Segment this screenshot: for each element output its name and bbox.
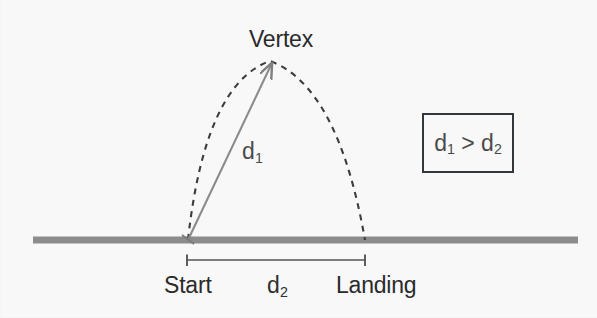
comparison-right-subscript: 2 bbox=[494, 141, 502, 157]
comparison-box: d1 > d2 bbox=[422, 113, 514, 173]
d1-label-base: d bbox=[242, 138, 255, 164]
comparison-box-text: d1 > d2 bbox=[434, 132, 502, 155]
trajectory-diagram: Vertex d1 Start d2 Landing d1 > d2 bbox=[0, 0, 597, 318]
vertex-label: Vertex bbox=[249, 28, 313, 51]
d2-label: d2 bbox=[267, 274, 288, 297]
landing-label: Landing bbox=[336, 274, 416, 297]
d2-label-base: d bbox=[267, 272, 280, 298]
d1-label: d1 bbox=[242, 140, 263, 163]
d2-label-subscript: 2 bbox=[280, 284, 288, 300]
trajectory-parabola-dashed bbox=[188, 61, 365, 240]
d1-label-subscript: 1 bbox=[255, 150, 263, 166]
comparison-right-base: d bbox=[481, 130, 494, 156]
comparison-operator: > bbox=[461, 130, 474, 156]
comparison-left-base: d bbox=[434, 130, 447, 156]
comparison-left-subscript: 1 bbox=[447, 141, 455, 157]
start-label: Start bbox=[164, 274, 212, 297]
